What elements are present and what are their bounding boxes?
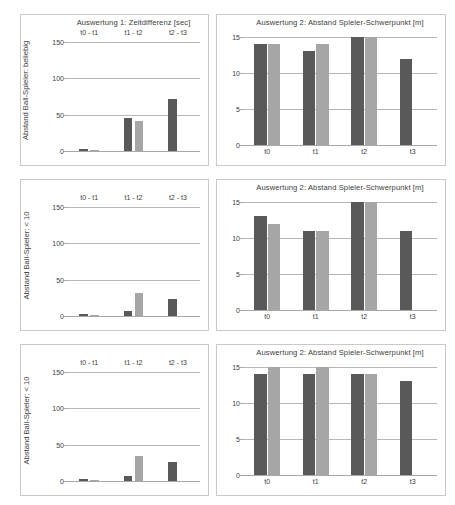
bar — [303, 231, 316, 310]
plot-area: 051015t0t1t2t3 — [243, 37, 437, 145]
gridline — [67, 316, 200, 317]
chart-bottom-left: Abstand Ball-Spieler: < 10050100150t0 - … — [21, 345, 208, 495]
gridline — [67, 78, 200, 79]
y-axis-tick-mark — [64, 115, 68, 116]
bar — [90, 150, 99, 151]
y-axis-tick-mark — [64, 243, 68, 244]
panel-top-left: Abstand Ball-Spieler: beliebigAuswertung… — [20, 14, 209, 166]
y-axis-tick-label: 150 — [52, 39, 64, 46]
y-axis-tick-label: 50 — [56, 277, 64, 284]
x-axis-tick-label: t2 - t3 — [169, 194, 187, 201]
x-axis-tick-label: t3 — [410, 478, 416, 485]
y-axis-tick-label: 150 — [52, 204, 64, 211]
bar — [303, 374, 316, 475]
bar — [168, 462, 177, 481]
y-axis-tick-mark — [64, 207, 68, 208]
y-axis-tick-label: 100 — [52, 405, 64, 412]
bar — [268, 367, 281, 475]
x-axis-tick-label: t0 - t1 — [80, 29, 98, 36]
bar — [79, 314, 88, 316]
plot-area: 051015t0t1t2t3 — [243, 202, 437, 310]
y-axis-tick-mark — [64, 42, 68, 43]
y-axis-tick-label: 10 — [232, 235, 240, 242]
x-axis-tick-label: t3 — [410, 313, 416, 320]
y-axis-tick-label: 10 — [232, 400, 240, 407]
bar — [168, 299, 177, 316]
y-axis-tick-mark — [240, 475, 244, 476]
chart-title: Auswertung 2: Abstand Spieler-Schwerpunk… — [243, 348, 437, 357]
gridline — [67, 115, 200, 116]
bar — [400, 59, 413, 145]
bar — [400, 231, 413, 310]
y-axis-tick-mark — [64, 316, 68, 317]
gridline — [67, 481, 200, 482]
bar — [90, 315, 99, 316]
bar — [365, 202, 378, 310]
plot-area: 050100150t0 - t1t1 - t2t2 - t3 — [67, 207, 200, 316]
y-axis-tick-label: 150 — [52, 369, 64, 376]
bar — [124, 118, 133, 151]
bar — [268, 44, 281, 145]
bar — [124, 476, 133, 481]
y-axis-tick-mark — [240, 274, 244, 275]
y-axis-tick-label: 15 — [232, 34, 240, 41]
plot-area: 050100150t0 - t1t1 - t2t2 - t3 — [67, 372, 200, 481]
gridline — [67, 151, 200, 152]
gridline — [243, 37, 437, 38]
gridline — [67, 408, 200, 409]
y-axis-tick-label: 15 — [232, 199, 240, 206]
bar — [254, 374, 267, 475]
gridline — [67, 372, 200, 373]
panel-middle-left: Abstand Ball-Spieler: < 10050100150t0 - … — [20, 179, 209, 331]
bar — [79, 149, 88, 151]
bar — [400, 381, 413, 475]
y-axis-tick-mark — [64, 280, 68, 281]
x-axis-tick-label: t2 — [361, 478, 367, 485]
y-axis-tick-label: 50 — [56, 442, 64, 449]
chart-top-right: Auswertung 2: Abstand Spieler-Schwerpunk… — [217, 15, 445, 165]
gridline — [67, 445, 200, 446]
gridline — [67, 243, 200, 244]
x-axis-tick-label: t2 — [361, 148, 367, 155]
bar — [135, 456, 144, 481]
bar — [365, 37, 378, 145]
bar — [90, 480, 99, 481]
plot-area: 051015t0t1t2t3 — [243, 367, 437, 475]
bar — [303, 51, 316, 145]
bar — [254, 216, 267, 310]
gridline — [243, 145, 437, 146]
x-axis-tick-label: t0 — [264, 148, 270, 155]
bar — [124, 311, 133, 316]
panel-bottom-left: Abstand Ball-Spieler: < 10050100150t0 - … — [20, 344, 209, 496]
bar — [168, 99, 177, 151]
bar — [351, 374, 364, 475]
bar — [79, 479, 88, 481]
y-axis-tick-mark — [240, 109, 244, 110]
y-axis-tick-mark — [240, 145, 244, 146]
gridline — [243, 475, 437, 476]
bar — [135, 293, 144, 316]
chart-title: Auswertung 2: Abstand Spieler-Schwerpunk… — [243, 183, 437, 192]
y-axis-tick-label: 50 — [56, 112, 64, 119]
x-axis-tick-label: t2 — [361, 313, 367, 320]
y-axis-tick-mark — [240, 439, 244, 440]
gridline — [67, 280, 200, 281]
x-axis-tick-label: t1 — [313, 478, 319, 485]
y-axis-tick-mark — [64, 408, 68, 409]
y-axis-tick-mark — [240, 403, 244, 404]
bar — [316, 367, 329, 475]
chart-bottom-right: Auswertung 2: Abstand Spieler-Schwerpunk… — [217, 345, 445, 495]
y-axis-tick-mark — [240, 310, 244, 311]
chart-title: Auswertung 1: Zeitdifferenz [sec] — [67, 18, 200, 27]
x-axis-tick-label: t1 - t2 — [125, 359, 143, 366]
y-axis-tick-mark — [64, 481, 68, 482]
bar — [316, 231, 329, 310]
y-axis-label: Abstand Ball-Spieler: < 10 — [19, 345, 33, 495]
x-axis-tick-label: t3 — [410, 148, 416, 155]
bar — [254, 44, 267, 145]
bar — [351, 37, 364, 145]
x-axis-tick-label: t0 — [264, 313, 270, 320]
y-axis-tick-label: 10 — [232, 70, 240, 77]
x-axis-tick-label: t1 - t2 — [125, 29, 143, 36]
bar — [351, 202, 364, 310]
